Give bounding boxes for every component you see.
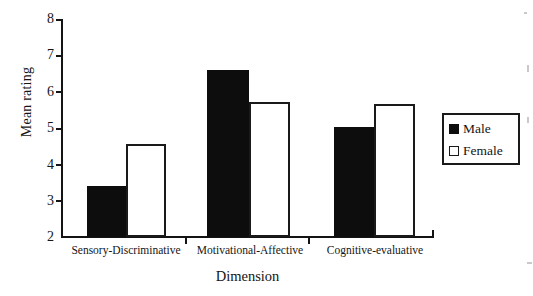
scan-artifact [527, 65, 529, 72]
bar-male-sensory-discriminative [87, 186, 126, 237]
x-axis-end-cap [432, 230, 434, 238]
y-tick-label-7: 7 [32, 48, 54, 62]
bar-female-cognitive-evaluative [374, 104, 415, 237]
y-tick-label-6: 6 [32, 85, 54, 99]
scan-artifact [527, 262, 532, 264]
legend-label-female: Female [463, 144, 503, 158]
scan-artifact [524, 12, 527, 14]
legend-swatch-male-icon [449, 124, 459, 134]
x-axis-title: Dimension [61, 268, 434, 285]
y-tick-label-5: 5 [32, 121, 54, 135]
y-tick-label-8: 8 [32, 12, 54, 26]
legend-swatch-female-icon [449, 146, 459, 156]
y-tick-label-3: 3 [32, 194, 54, 208]
bar-female-motivational-affective [249, 102, 290, 237]
legend-row-female: Female [449, 140, 518, 162]
x-category-label-sensory-discriminative: Sensory-Discriminative [56, 243, 196, 257]
y-tick-mark-4 [56, 164, 62, 166]
y-tick-mark-5 [56, 128, 62, 130]
legend-label-male: Male [463, 122, 491, 136]
bar-female-sensory-discriminative [126, 144, 166, 237]
bar-male-motivational-affective [207, 70, 249, 237]
y-axis-top-cap [56, 19, 63, 21]
y-tick-mark-7 [56, 55, 62, 57]
y-tick-label-4: 4 [32, 158, 54, 172]
x-category-label-cognitive-evaluative: Cognitive-evaluative [311, 243, 439, 257]
bar-chart-figure: Mean rating 8 7 6 5 4 3 2 Sensory-Discri… [0, 0, 533, 296]
y-tick-mark-6 [56, 91, 62, 93]
x-category-label-motivational-affective: Motivational-Affective [180, 243, 320, 257]
scan-artifact [527, 117, 529, 123]
bar-male-cognitive-evaluative [334, 127, 374, 237]
y-tick-label-2: 2 [32, 230, 54, 244]
legend-row-male: Male [449, 118, 518, 140]
y-tick-mark-3 [56, 200, 62, 202]
chart-legend: Male Female [442, 113, 520, 165]
